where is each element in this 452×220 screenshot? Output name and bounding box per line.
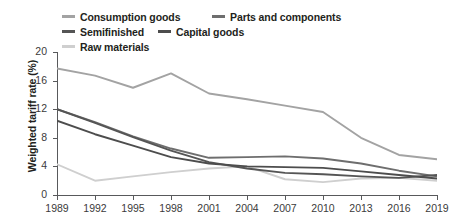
x-tick-mark xyxy=(285,196,286,200)
x-tick-mark xyxy=(209,196,210,200)
x-tick-mark xyxy=(247,196,248,200)
x-tick-label: 2013 xyxy=(341,202,381,214)
legend-swatch-raw-materials xyxy=(62,45,75,48)
legend-label-semifinished: Semifinished xyxy=(80,26,144,38)
legend-swatch-capital-goods xyxy=(158,30,171,33)
y-tick-label: 8 xyxy=(29,131,47,143)
y-tick-label: 12 xyxy=(29,102,47,114)
x-tick-mark xyxy=(133,196,134,200)
x-tick-label: 2004 xyxy=(227,202,267,214)
x-tick-label: 2016 xyxy=(379,202,419,214)
legend-item-consumption-goods[interactable]: Consumption goods xyxy=(62,9,202,24)
x-tick-label: 2010 xyxy=(303,202,343,214)
legend-item-parts-and-components[interactable]: Parts and components xyxy=(212,9,364,24)
x-tick-label: 2001 xyxy=(189,202,229,214)
series-line-consumption-goods xyxy=(57,68,437,159)
legend-label-consumption-goods: Consumption goods xyxy=(80,11,180,23)
legend-swatch-consumption-goods xyxy=(62,15,75,18)
x-tick-label: 2007 xyxy=(265,202,305,214)
legend-label-raw-materials: Raw materials xyxy=(80,41,149,53)
x-tick-mark xyxy=(95,196,96,200)
x-tick-mark xyxy=(361,196,362,200)
x-tick-label: 1998 xyxy=(151,202,191,214)
series-lines xyxy=(57,52,437,195)
y-tick-label: 20 xyxy=(29,45,47,57)
legend-item-capital-goods[interactable]: Capital goods xyxy=(158,24,298,39)
legend-item-semifinished[interactable]: Semifinished xyxy=(62,24,148,39)
y-tick-label: 16 xyxy=(29,74,47,86)
x-tick-mark xyxy=(323,196,324,200)
x-tick-label: 1989 xyxy=(37,202,77,214)
chart-legend: Consumption goods Parts and components S… xyxy=(62,9,448,54)
plot-area xyxy=(57,52,437,195)
x-tick-label: 1992 xyxy=(75,202,115,214)
x-tick-mark xyxy=(437,196,438,200)
chart-figure: Consumption goods Parts and components S… xyxy=(0,0,452,220)
legend-swatch-semifinished xyxy=(62,30,75,33)
x-tick-mark xyxy=(399,196,400,200)
y-tick-label: 0 xyxy=(29,188,47,200)
x-tick-label: 2019 xyxy=(417,202,452,214)
y-axis-ticks: 201612840 xyxy=(29,52,47,195)
y-tick-label: 4 xyxy=(29,159,47,171)
x-tick-label: 1995 xyxy=(113,202,153,214)
legend-label-parts-and-components: Parts and components xyxy=(230,11,341,23)
legend-label-capital-goods: Capital goods xyxy=(176,26,244,38)
legend-swatch-parts-and-components xyxy=(212,15,225,18)
x-tick-mark xyxy=(57,196,58,200)
x-tick-mark xyxy=(171,196,172,200)
